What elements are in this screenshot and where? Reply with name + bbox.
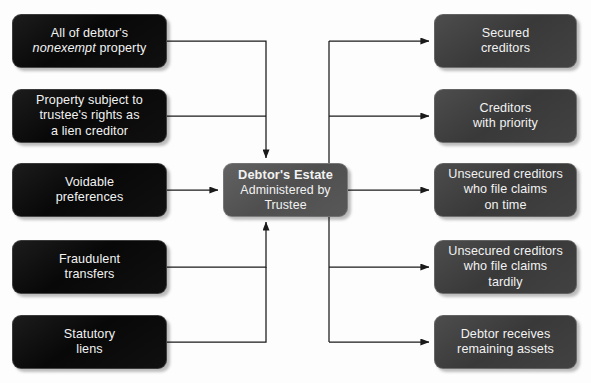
- node-label: Unsecured creditors who file claims on t…: [435, 167, 576, 213]
- line-1: Property subject to: [36, 93, 143, 107]
- connector-nonexempt-to-estate: [167, 41, 266, 158]
- node-label: Secured creditors: [435, 26, 576, 57]
- line-2: trustee's rights as: [39, 108, 139, 122]
- node-fraudulent-transfers[interactable]: Fraudulent transfers: [12, 240, 167, 294]
- line-2: property: [99, 41, 146, 55]
- line-1: Unsecured creditors: [448, 167, 563, 181]
- line-2: remaining assets: [457, 342, 554, 356]
- node-label: All of debtor's nonexempt property: [13, 26, 166, 57]
- line-1: Creditors: [480, 101, 532, 115]
- line-emphasis: nonexempt: [33, 41, 96, 55]
- line-1: Unsecured creditors: [448, 244, 563, 258]
- line-1: All of debtor's: [51, 26, 128, 40]
- node-label: Debtor's Estate Administered by Trustee: [224, 167, 347, 213]
- line-1: Fraudulent: [59, 252, 120, 266]
- line-1: Secured: [482, 26, 530, 40]
- line-2: preferences: [56, 190, 124, 204]
- line-2: Administered by: [240, 183, 330, 197]
- line-3: tardily: [488, 275, 522, 289]
- line-2: creditors: [481, 41, 530, 55]
- node-creditors-with-priority[interactable]: Creditors with priority: [434, 89, 577, 143]
- node-trustee-lien-rights[interactable]: Property subject to trustee's rights as …: [12, 89, 167, 143]
- node-label: Creditors with priority: [435, 101, 576, 132]
- node-debtors-estate[interactable]: Debtor's Estate Administered by Trustee: [223, 163, 348, 217]
- node-label: Statutory liens: [13, 327, 166, 358]
- node-secured-creditors[interactable]: Secured creditors: [434, 14, 577, 68]
- bankruptcy-estate-diagram: All of debtor's nonexempt property Prope…: [0, 0, 591, 383]
- node-unsecured-tardily[interactable]: Unsecured creditors who file claims tard…: [434, 240, 577, 294]
- node-label: Fraudulent transfers: [13, 252, 166, 283]
- line-3: Trustee: [264, 198, 306, 212]
- node-debtor-remaining-assets[interactable]: Debtor receives remaining assets: [434, 315, 577, 369]
- center-title: Debtor's Estate: [238, 167, 333, 182]
- line-3: on time: [485, 198, 527, 212]
- line-2: who file claims: [464, 182, 547, 196]
- line-1: Statutory: [64, 327, 115, 341]
- node-label: Debtor receives remaining assets: [435, 327, 576, 358]
- node-label: Unsecured creditors who file claims tard…: [435, 244, 576, 290]
- line-3: a lien creditor: [51, 124, 128, 138]
- line-2: transfers: [65, 267, 115, 281]
- node-label: Voidable preferences: [13, 175, 166, 206]
- node-label: Property subject to trustee's rights as …: [13, 93, 166, 139]
- node-unsecured-on-time[interactable]: Unsecured creditors who file claims on t…: [434, 163, 577, 217]
- line-2: with priority: [473, 116, 538, 130]
- node-nonexempt-property[interactable]: All of debtor's nonexempt property: [12, 14, 167, 68]
- line-1: Debtor receives: [461, 327, 551, 341]
- line-2: who file claims: [464, 259, 547, 273]
- line-2: liens: [76, 342, 102, 356]
- connector-statutory-to-estate: [167, 267, 266, 342]
- node-statutory-liens[interactable]: Statutory liens: [12, 315, 167, 369]
- connector-fraudulent-to-estate: [167, 222, 266, 267]
- line-1: Voidable: [65, 175, 114, 189]
- node-voidable-preferences[interactable]: Voidable preferences: [12, 163, 167, 217]
